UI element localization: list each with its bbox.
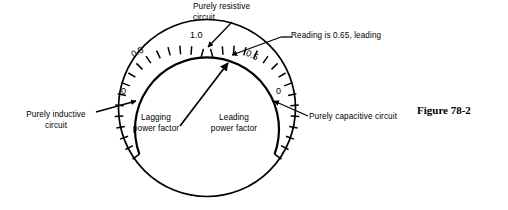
scale-number-0-left: 0 [121,86,126,96]
annotation-lagging-line1: Lagging [125,113,187,124]
annotation-lagging-power-factor: Lagging power factor [125,113,187,134]
leader-purely-resistive [208,22,232,47]
figure-caption: Figure 78-2 [417,104,471,116]
figure-78-2: 0 0.5 1.0 0.5 0 Purely resistive circuit… [0,0,508,210]
annotation-lagging-line2: power factor [125,124,187,135]
annotation-leading-power-factor: Leading power factor [203,113,265,134]
annotation-purely-inductive: Purely inductive circuit [14,110,98,131]
annotation-purely-inductive-line1: Purely inductive [14,110,98,121]
annotation-purely-capacitive: Purely capacitive circuit [309,112,397,123]
annotation-purely-resistive-line2: circuit [193,13,250,24]
leader-purely-inductive [96,101,136,112]
leader-purely-capacitive [274,101,308,116]
meter-body-circle [119,20,296,197]
scale-number-0-right: 0 [276,86,281,96]
scale-number-10-top: 1.0 [190,30,203,40]
annotation-reading: Reading is 0.65, leading [291,31,381,42]
annotation-purely-resistive-line1: Purely resistive [193,2,250,13]
annotation-leading-line2: power factor [203,124,265,135]
meter-tick-marks [115,46,300,160]
annotation-purely-resistive: Purely resistive circuit [193,2,250,23]
annotation-leading-line1: Leading [203,113,265,124]
meter-scale-arc [135,57,279,154]
annotation-purely-inductive-line2: circuit [14,121,98,132]
